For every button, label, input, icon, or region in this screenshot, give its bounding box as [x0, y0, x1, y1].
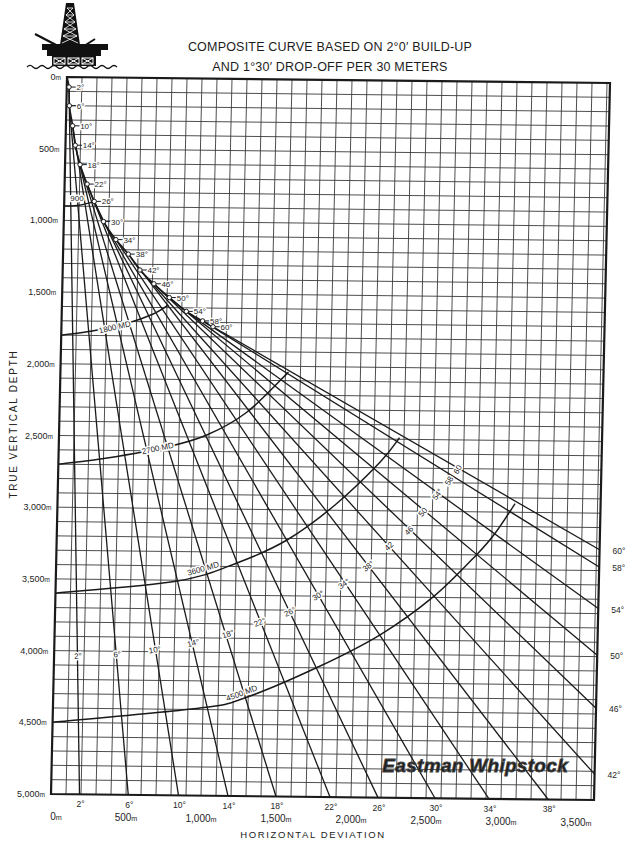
grid-line-horizontal	[64, 220, 607, 226]
x-tick-label: 3,500m	[560, 817, 591, 828]
grid-line-horizontal	[67, 91, 610, 97]
x-tick-label: 2,500m	[410, 815, 441, 826]
build-marker-label: 30°	[111, 218, 123, 227]
bottom-angle-label: 2°	[76, 799, 84, 809]
grid-line-horizontal	[65, 177, 608, 183]
grid-line-horizontal	[64, 192, 607, 198]
y-tick-label: 1,500m	[28, 287, 56, 297]
y-tick-label: 4,500m	[19, 717, 47, 727]
grid-line-horizontal	[65, 149, 608, 155]
grid-line-horizontal	[59, 436, 602, 442]
y-tick-label: 3,000m	[23, 502, 51, 512]
right-angle-label: 58°	[612, 563, 625, 573]
x-axis-ticks: 0m500m1,000m1,500m2,000m2,500m3,000m3,50…	[50, 811, 591, 828]
grid-line-horizontal	[53, 708, 596, 714]
bottom-angle-label: 6°	[125, 800, 133, 810]
angle-line-label: 6°	[113, 650, 122, 660]
grid-line-horizontal	[54, 679, 597, 685]
grid-line-horizontal	[57, 522, 600, 528]
build-marker-label: 54°	[194, 307, 206, 316]
y-tick-label: 2,000m	[27, 359, 55, 369]
y-tick-label: 3,500m	[22, 574, 50, 584]
chart-page: COMPOSITE CURVE BASED ON 2°0′ BUILD-UP A…	[0, 0, 628, 846]
grid-line-horizontal	[53, 694, 596, 700]
angle-line-22	[87, 184, 330, 797]
x-tick-label: 2,000m	[335, 814, 366, 825]
build-marker	[78, 162, 82, 166]
grid-line-horizontal	[63, 235, 606, 241]
angle-line-26	[94, 201, 378, 797]
grid-line-horizontal	[55, 622, 598, 628]
right-angle-label: 60°	[613, 546, 626, 556]
bottom-angle-label: 26°	[373, 803, 386, 813]
y-tick-label: 500m	[39, 144, 59, 154]
angle-line-30	[104, 222, 435, 799]
bottom-angle-label: 22°	[325, 802, 338, 812]
bottom-angle-label: 10°	[173, 800, 186, 810]
angle-line-58	[203, 321, 600, 567]
grid-line-horizontal	[54, 665, 597, 671]
build-marker	[114, 237, 118, 241]
directional-drilling-chart: 9001800 MD2700 MD3600 MD4500 MD2°6°10°14…	[0, 0, 628, 846]
grid-line-horizontal	[58, 464, 601, 470]
md-curve-label: 900	[70, 194, 84, 203]
build-marker	[184, 309, 188, 313]
grid-line-horizontal	[63, 263, 606, 269]
grid-line-horizontal	[66, 106, 609, 112]
x-tick-label: 1,500m	[260, 813, 291, 824]
build-marker	[101, 219, 105, 223]
right-angle-label: 54°	[611, 605, 624, 615]
grid-line-horizontal	[62, 306, 605, 312]
build-marker-label: 2°	[77, 83, 85, 92]
bottom-angle-label: 38°	[543, 804, 556, 814]
angle-line-label: 38°	[361, 559, 376, 574]
right-angle-label: 42°	[608, 770, 621, 780]
build-marker	[70, 124, 74, 128]
y-tick-label: 0m	[51, 72, 61, 82]
build-marker	[138, 268, 142, 272]
y-axis-title: TRUE VERTICAL DEPTH	[8, 349, 19, 498]
right-angle-label: 50°	[610, 651, 623, 661]
build-marker-label: 46°	[161, 280, 173, 289]
angle-line-label: 14°	[186, 637, 200, 649]
grid-line-horizontal	[61, 349, 604, 355]
build-marker	[92, 199, 96, 203]
grid-line-horizontal	[53, 722, 596, 728]
build-marker	[200, 319, 204, 323]
build-marker-label: 10°	[80, 122, 92, 131]
x-tick-label: 500m	[115, 812, 138, 823]
y-tick-label: 5,000m	[17, 789, 45, 799]
angle-line-label: 30°	[311, 589, 326, 603]
bottom-angle-label: 30°	[430, 803, 443, 813]
grid-line-horizontal	[54, 651, 597, 657]
angle-line-54	[186, 311, 598, 608]
grid-line-horizontal	[66, 120, 609, 126]
build-marker-label: 6°	[77, 102, 85, 111]
build-marker	[73, 143, 77, 147]
build-marker	[211, 325, 215, 329]
angle-line-label: 50	[417, 506, 430, 519]
build-marker-label: 26°	[102, 197, 114, 206]
eastman-whipstock-watermark: Eastman Whipstock	[382, 755, 569, 776]
build-marker	[67, 85, 71, 89]
build-marker	[167, 295, 171, 299]
x-tick-label: 0m	[50, 811, 62, 822]
grid-line-horizontal	[55, 593, 598, 599]
grid	[51, 77, 609, 800]
x-tick-label: 1,000m	[185, 813, 216, 824]
grid-line-horizontal	[56, 565, 599, 571]
grid-line-horizontal	[55, 636, 598, 642]
grid-line-horizontal	[65, 163, 608, 169]
build-marker	[67, 104, 71, 108]
right-angle-label: 46°	[609, 704, 622, 714]
grid-line-horizontal	[52, 737, 595, 743]
grid-line-horizontal	[61, 335, 604, 341]
angle-line-label: 2°	[74, 652, 82, 661]
bottom-angle-label: 18°	[271, 801, 284, 811]
angle-line-2	[69, 87, 79, 794]
bottom-angle-label: 14°	[223, 801, 236, 811]
build-marker-label: 18°	[88, 161, 100, 170]
grid-line-horizontal	[58, 493, 601, 499]
angle-line-label: 46	[403, 524, 416, 537]
y-tick-label: 2,500m	[25, 431, 53, 441]
